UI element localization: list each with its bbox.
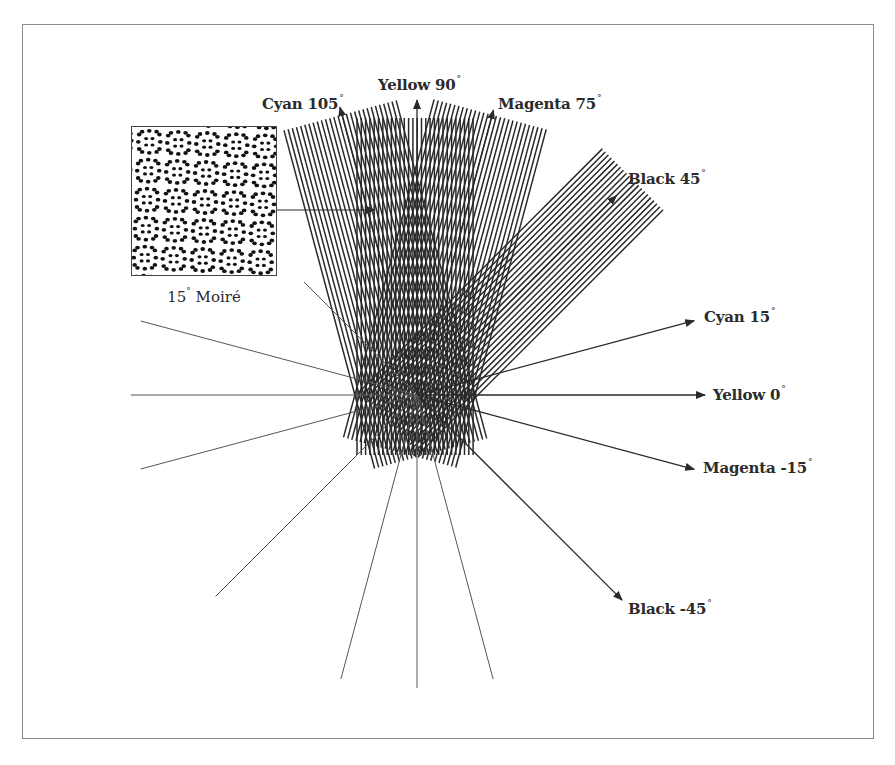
label-black-neg45: Black -45° [628,598,711,618]
moire-inset-caption: 15° Moiré [131,286,277,306]
label-yellow-0: Yellow 0° [713,384,786,404]
ray-225 [216,395,418,597]
moire-inset-image [131,126,277,276]
label-yellow-90: Yellow 90° [378,74,461,94]
screen-line-bands [284,99,663,468]
ray--45-arrow [417,395,622,600]
screen-angle-diagram [0,0,895,765]
label-magenta-75: Magenta 75° [498,93,601,113]
label-cyan-15: Cyan 15° [704,306,775,326]
label-black-45: Black 45° [628,168,705,188]
label-cyan-105: Cyan 105° [262,93,344,113]
label-magenta-neg15: Magenta -15° [703,457,812,477]
